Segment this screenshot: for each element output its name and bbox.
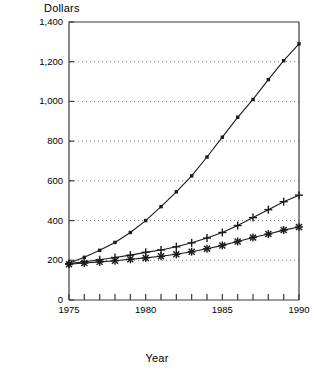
data-point-plus	[172, 243, 180, 251]
x-axis-tick-label: 1975	[49, 304, 89, 315]
data-point-star	[249, 233, 257, 241]
data-point-square	[221, 135, 224, 138]
data-point-square	[144, 219, 147, 222]
data-point-square	[236, 116, 239, 119]
y-axis-tick-label: 1,000	[23, 95, 63, 106]
data-point-plus	[264, 206, 272, 214]
series-line-square	[69, 44, 299, 263]
data-point-star	[65, 260, 73, 268]
data-point-star	[188, 248, 196, 256]
data-point-star	[172, 250, 180, 258]
data-point-square	[98, 249, 101, 252]
data-point-star	[218, 241, 226, 249]
plot-frame	[69, 22, 299, 300]
x-axis-tick-label: 1990	[279, 304, 314, 315]
data-point-star	[111, 257, 119, 265]
data-point-star	[264, 230, 272, 238]
data-point-star	[80, 259, 88, 267]
y-axis-tick-label: 200	[23, 254, 63, 265]
data-point-plus	[295, 191, 303, 199]
data-point-plus	[234, 222, 242, 230]
data-point-star	[96, 258, 104, 266]
x-axis-tick-label: 1980	[126, 304, 166, 315]
data-point-plus	[188, 239, 196, 247]
y-axis-title: Dollars	[44, 2, 80, 14]
data-point-square	[251, 98, 254, 101]
y-axis-tick-label: 800	[23, 135, 63, 146]
data-point-square	[297, 42, 300, 45]
data-point-square	[113, 241, 116, 244]
data-point-star	[142, 254, 150, 262]
y-axis-tick-label: 1,400	[23, 16, 63, 27]
data-point-star	[280, 226, 288, 234]
data-point-star	[157, 252, 165, 260]
y-axis-tick-label: 400	[23, 215, 63, 226]
data-point-square	[282, 59, 285, 62]
data-point-star	[126, 255, 134, 263]
chart-container: Dollars Year 02004006008001,0001,2001,40…	[0, 0, 314, 375]
data-point-square	[159, 205, 162, 208]
data-point-star	[203, 245, 211, 253]
x-axis-tick-label: 1985	[202, 304, 242, 315]
data-point-star	[234, 237, 242, 245]
data-point-square	[175, 190, 178, 193]
data-point-square	[129, 231, 132, 234]
data-point-plus	[203, 234, 211, 242]
data-point-square	[267, 78, 270, 81]
data-point-star	[295, 223, 303, 231]
data-point-square	[190, 174, 193, 177]
x-axis-title: Year	[0, 352, 314, 364]
y-axis-tick-label: 1,200	[23, 56, 63, 67]
data-point-square	[205, 155, 208, 158]
y-axis-tick-label: 600	[23, 175, 63, 186]
data-point-plus	[280, 198, 288, 206]
data-point-plus	[218, 228, 226, 236]
